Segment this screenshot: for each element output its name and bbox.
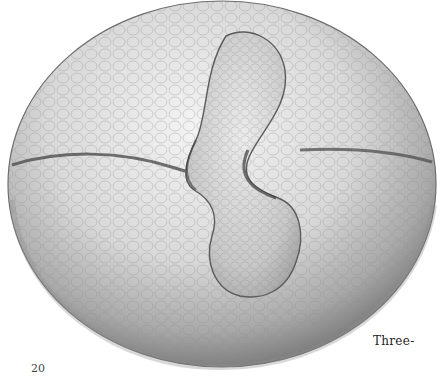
caption-fragment: Three- (373, 334, 415, 348)
page-number: 20 (31, 362, 45, 375)
sphere-illustration (0, 0, 444, 383)
